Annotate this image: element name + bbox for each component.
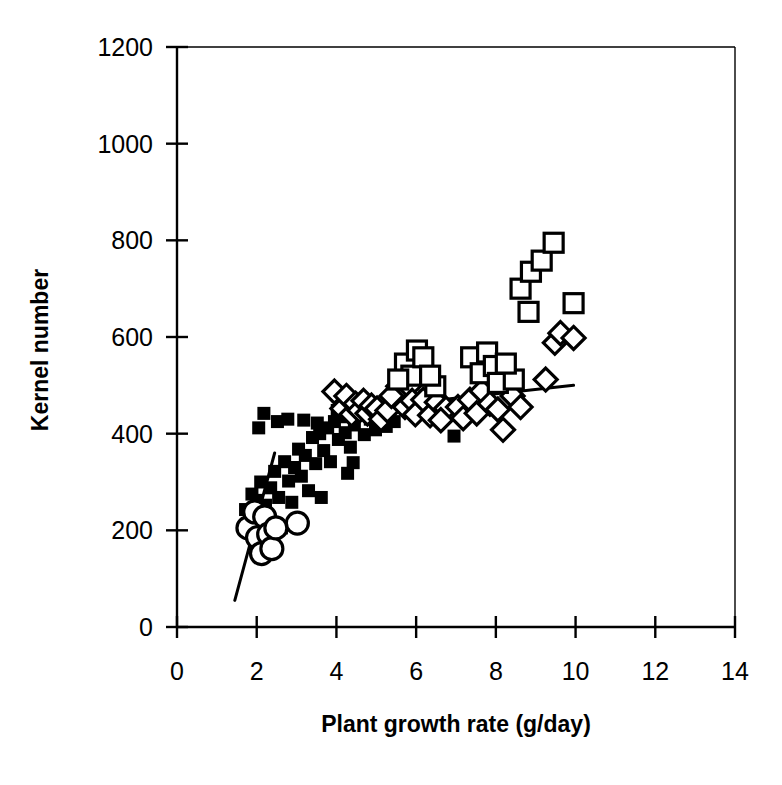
x-tick-label: 2	[250, 657, 264, 685]
marker-open-square	[389, 370, 408, 389]
marker-filled-square	[252, 421, 265, 434]
marker-open-square	[414, 348, 433, 367]
x-tick-label: 14	[721, 657, 749, 685]
marker-open-square	[544, 233, 563, 252]
marker-filled-square	[311, 417, 324, 430]
marker-open-square	[421, 366, 440, 385]
marker-filled-square	[302, 484, 315, 497]
marker-filled-square	[324, 455, 337, 468]
marker-filled-square	[315, 491, 328, 504]
y-tick-label: 0	[139, 613, 153, 641]
marker-open-square	[519, 302, 538, 321]
series-open-square	[389, 233, 583, 396]
x-tick-label: 4	[329, 657, 343, 685]
marker-open-circle	[265, 517, 287, 539]
x-axis-title: Plant growth rate (g/day)	[321, 711, 591, 737]
marker-open-circle	[261, 538, 283, 560]
x-tick-label: 10	[562, 657, 590, 685]
marker-filled-square	[257, 407, 270, 420]
y-axis-title: Kernel number	[27, 269, 53, 431]
x-tick-label: 8	[489, 657, 503, 685]
marker-filled-square	[448, 430, 461, 443]
marker-filled-square	[341, 467, 354, 480]
marker-filled-square	[282, 475, 295, 488]
scatter-plot: 020040060080010001200 02468101214 Plant …	[0, 0, 782, 785]
marker-filled-square	[358, 428, 371, 441]
marker-filled-square	[272, 491, 285, 504]
marker-open-circle	[286, 512, 308, 534]
x-tick-label: 12	[641, 657, 669, 685]
marker-filled-square	[295, 470, 308, 483]
marker-open-diamond	[492, 418, 515, 441]
y-tick-label: 800	[111, 226, 153, 254]
marker-filled-square	[297, 414, 310, 427]
marker-filled-square	[317, 444, 330, 457]
data-markers	[237, 233, 585, 564]
marker-open-square	[564, 294, 583, 313]
series-open-diamond	[323, 322, 585, 442]
y-tick-label: 200	[111, 516, 153, 544]
x-tick-label: 0	[170, 657, 184, 685]
figure-container: 020040060080010001200 02468101214 Plant …	[0, 0, 782, 785]
y-tick-label: 600	[111, 323, 153, 351]
y-tick-label: 400	[111, 420, 153, 448]
marker-filled-square	[281, 413, 294, 426]
marker-open-square	[496, 354, 515, 373]
y-tick-label: 1000	[97, 130, 153, 158]
marker-filled-square	[285, 496, 298, 509]
marker-open-square	[532, 251, 551, 270]
x-axis-tick-labels: 02468101214	[170, 657, 749, 685]
marker-filled-square	[309, 457, 322, 470]
y-tick-label: 1200	[97, 33, 153, 61]
y-axis-tick-labels: 020040060080010001200	[97, 33, 153, 641]
x-tick-label: 6	[409, 657, 423, 685]
marker-filled-square	[344, 441, 357, 454]
